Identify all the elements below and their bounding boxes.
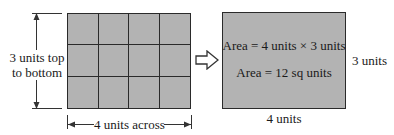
grid-cell <box>99 14 130 45</box>
grid-cell <box>99 45 130 76</box>
arrow-up-icon <box>32 13 41 21</box>
grid-cell <box>99 77 130 108</box>
right-height-label: 3 units <box>352 53 387 69</box>
hollow-right-arrow-icon <box>195 50 219 70</box>
grid-cell <box>68 45 99 76</box>
height-label-line2: to bottom <box>0 65 74 80</box>
arrow-left-icon <box>68 120 76 129</box>
height-label-line1: 3 units top <box>0 50 74 65</box>
area-rectangle <box>222 12 346 109</box>
grid-cell <box>129 45 160 76</box>
grid-cell <box>68 14 99 45</box>
width-label: 4 units across <box>94 117 164 133</box>
area-formula-line2: Area = 12 sq units <box>222 65 346 81</box>
right-width-label: 4 units <box>252 111 316 127</box>
arrow-right-icon <box>183 120 191 129</box>
area-formula-line1: Area = 4 units × 3 units <box>222 38 346 54</box>
grid-cell <box>160 14 191 45</box>
grid-cell <box>129 77 160 108</box>
unit-square-grid <box>67 13 191 109</box>
width-dim-right-tick <box>191 115 192 129</box>
arrow-down-icon <box>32 101 41 109</box>
grid-cell <box>68 77 99 108</box>
grid-cell <box>160 45 191 76</box>
height-label: 3 units top to bottom <box>0 50 74 80</box>
grid-cell <box>160 77 191 108</box>
grid-cell <box>129 14 160 45</box>
